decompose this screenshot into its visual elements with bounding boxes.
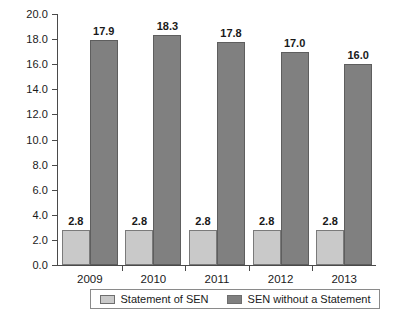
x-axis-tick-label: 2011 (185, 273, 249, 285)
y-axis-tick (52, 240, 57, 241)
legend-item-sen-without-a-statement: SEN without a Statement (227, 294, 371, 305)
bar-group: 2.817.0 (249, 14, 313, 265)
y-axis-tick-label: 20.0 (0, 9, 48, 20)
bar-value-label: 18.3 (145, 21, 189, 32)
y-axis-tick-label: 10.0 (0, 135, 48, 146)
legend-swatch-icon (227, 295, 242, 304)
x-axis-tick (185, 266, 186, 271)
bar-value-label: 17.0 (273, 38, 317, 49)
bar-group: 2.817.9 (58, 14, 122, 265)
y-axis-tick-label: 8.0 (0, 160, 48, 171)
bar-value-label: 17.9 (82, 26, 126, 37)
y-axis-tick (52, 190, 57, 191)
x-axis-tick (312, 266, 313, 271)
y-axis-tick (52, 114, 57, 115)
y-axis-tick-label: 12.0 (0, 109, 48, 120)
bar-value-label: 17.8 (209, 28, 253, 39)
bar[interactable] (253, 230, 281, 265)
bar-group: 2.816.0 (312, 14, 376, 265)
x-axis-tick (249, 266, 250, 271)
bar[interactable] (217, 42, 245, 265)
y-axis-tick-label: 14.0 (0, 84, 48, 95)
y-axis-tick (52, 39, 57, 40)
x-axis-tick (122, 266, 123, 271)
plot-area: 2.817.92.818.32.817.82.817.02.816.0 (58, 14, 376, 265)
bar[interactable] (62, 230, 90, 265)
y-axis-tick (52, 265, 57, 266)
bar[interactable] (153, 35, 181, 265)
y-axis-tick-label: 6.0 (0, 185, 48, 196)
bar[interactable] (281, 52, 309, 265)
x-axis-line (57, 265, 376, 266)
x-axis-tick-label: 2013 (312, 273, 376, 285)
bar-chart: 0.02.04.06.08.010.012.014.016.018.020.0 … (0, 0, 420, 318)
bar[interactable] (125, 230, 153, 265)
y-axis-tick-label: 0.0 (0, 260, 48, 271)
bar[interactable] (90, 40, 118, 265)
bar[interactable] (189, 230, 217, 265)
x-axis-tick-label: 2009 (58, 273, 122, 285)
y-axis-tick-label: 2.0 (0, 235, 48, 246)
y-axis-tick (52, 165, 57, 166)
bar-group: 2.818.3 (122, 14, 186, 265)
y-axis-tick-label: 18.0 (0, 34, 48, 45)
y-axis-tick (52, 14, 57, 15)
legend-label: Statement of SEN (121, 294, 209, 305)
y-axis-tick (52, 64, 57, 65)
x-axis-tick-label: 2010 (122, 273, 186, 285)
bar[interactable] (316, 230, 344, 265)
chart-legend: Statement of SEN SEN without a Statement (90, 289, 380, 309)
legend-swatch-icon (100, 295, 115, 304)
y-axis-tick (52, 140, 57, 141)
bar-value-label: 16.0 (336, 50, 380, 61)
legend-label: SEN without a Statement (248, 294, 371, 305)
legend-item-statement-of-sen: Statement of SEN (100, 294, 209, 305)
x-axis-tick-label: 2012 (249, 273, 313, 285)
bar[interactable] (344, 64, 372, 265)
y-axis-tick (52, 89, 57, 90)
y-axis-tick-label: 4.0 (0, 210, 48, 221)
bar-group: 2.817.8 (185, 14, 249, 265)
y-axis-tick-label: 16.0 (0, 59, 48, 70)
